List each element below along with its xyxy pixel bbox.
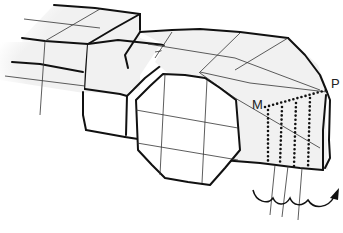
octagon-face (136, 74, 240, 185)
label-m: M (252, 97, 263, 112)
label-p: P (331, 76, 340, 91)
folded-block-diagram: M P (0, 0, 343, 233)
rotation-arrow-icon (253, 188, 339, 206)
hanging-strands (270, 165, 302, 220)
